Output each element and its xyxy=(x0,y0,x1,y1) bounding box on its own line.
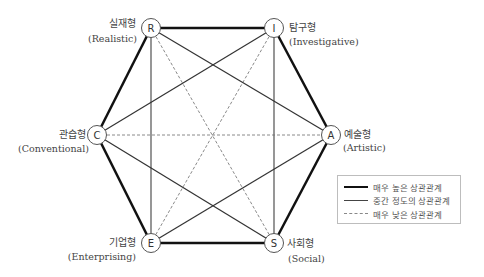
node-letter: S xyxy=(271,238,277,249)
label-I-en: (Investigative) xyxy=(289,36,359,47)
dashed-line-swatch-icon xyxy=(344,213,368,214)
node-letter: C xyxy=(94,130,101,141)
node-A: A xyxy=(322,126,341,145)
legend-item-medium: 중간 정도의 상관관계 xyxy=(344,194,454,208)
riasec-hexagon-diagram: R I A S E C 실재형 (Realistic) 탐구형 (Investi… xyxy=(0,0,484,277)
label-A-en: (Artistic) xyxy=(343,142,386,153)
label-C-en: (Conventional) xyxy=(18,143,89,154)
label-I-ko: 탐구형 xyxy=(289,22,316,33)
edge-A-E xyxy=(151,135,331,243)
label-S-ko: 사회형 xyxy=(287,238,314,249)
node-letter: I xyxy=(273,23,276,34)
low-correlation-lines xyxy=(97,28,331,243)
node-R: R xyxy=(142,19,161,38)
legend-item-low: 매우 낮은 상관관계 xyxy=(344,207,454,221)
legend-item-high: 매우 높은 상관관계 xyxy=(344,180,454,194)
node-letter: R xyxy=(148,23,155,34)
node-C: C xyxy=(88,126,107,145)
legend: 매우 높은 상관관계 중간 정도의 상관관계 매우 낮은 상관관계 xyxy=(337,175,461,224)
edge-A-S xyxy=(274,135,331,243)
thick-line-swatch-icon xyxy=(344,186,368,188)
label-C-ko: 관습형 xyxy=(59,129,86,140)
label-E-ko: 기업형 xyxy=(109,236,136,248)
legend-label: 매우 높은 상관관계 xyxy=(373,181,442,193)
node-E: E xyxy=(142,234,161,253)
node-S: S xyxy=(265,234,284,253)
legend-label: 중간 정도의 상관관계 xyxy=(373,194,450,206)
label-E-en: (Enterprising) xyxy=(68,251,136,262)
label-R-en: (Realistic) xyxy=(88,33,137,44)
medium-line-swatch-icon xyxy=(344,200,368,201)
legend-label: 매우 낮은 상관관계 xyxy=(373,208,442,220)
node-letter: A xyxy=(328,130,335,141)
node-I: I xyxy=(265,19,284,38)
label-A-ko: 예술형 xyxy=(344,129,371,140)
node-letter: E xyxy=(148,238,154,249)
label-S-en: (Social) xyxy=(288,253,325,264)
label-R-ko: 실재형 xyxy=(109,18,136,29)
